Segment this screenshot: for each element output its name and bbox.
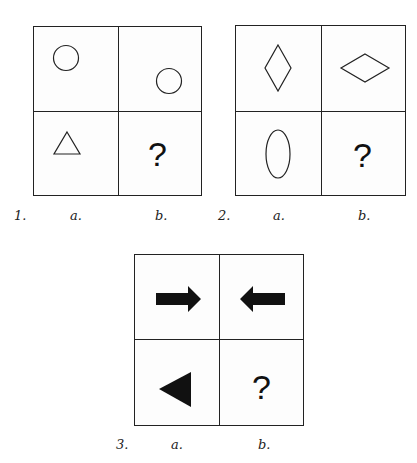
puzzle-3-col-a: a. — [171, 437, 183, 452]
puzzle-1-col-b: b. — [155, 208, 167, 223]
puzzle-2-number: 2. — [218, 208, 230, 223]
question-mark: ? — [252, 370, 271, 404]
horizontal-diamond-icon — [339, 52, 391, 84]
ellipse-icon — [264, 128, 292, 180]
triangle-left-icon — [158, 371, 192, 409]
question-mark: ? — [148, 137, 167, 171]
puzzle-1-col-a: a. — [70, 208, 82, 223]
divider — [236, 111, 405, 112]
puzzle-1-grid: ? — [33, 26, 202, 196]
triangle-icon — [52, 130, 82, 156]
divider — [34, 111, 201, 112]
puzzle-3-col-b: b. — [258, 437, 270, 452]
circle-icon — [155, 67, 183, 95]
puzzle-3-grid: ? — [134, 254, 304, 426]
arrow-right-icon — [155, 286, 203, 312]
vertical-diamond-icon — [263, 43, 293, 93]
arrow-left-icon — [238, 286, 286, 312]
puzzle-2-col-b: b. — [358, 208, 370, 223]
puzzle-2-grid: ? — [235, 25, 406, 196]
divider — [135, 339, 303, 340]
question-mark: ? — [353, 138, 372, 172]
puzzle-3-number: 3. — [116, 437, 128, 452]
puzzle-1-number: 1. — [14, 208, 26, 223]
circle-icon — [52, 44, 80, 72]
puzzle-2-col-a: a. — [273, 208, 285, 223]
